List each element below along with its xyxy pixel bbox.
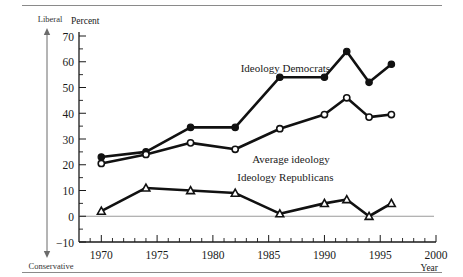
x-axis-tick-label: 2000 [425, 249, 448, 261]
data-point-marker [277, 126, 283, 132]
data-point-marker [321, 74, 327, 80]
data-point-marker [344, 95, 350, 101]
liberal-arrow-head [44, 28, 50, 35]
y-axis-tick-label: −10 [56, 237, 74, 249]
conservative-arrow-head [44, 251, 50, 258]
data-point-marker [388, 111, 394, 117]
data-point-marker [387, 199, 395, 206]
data-point-marker [366, 79, 372, 85]
data-point-marker [187, 124, 193, 130]
y-axis-tick-label: 20 [63, 159, 75, 171]
x-axis-tick-label: 1985 [257, 249, 280, 261]
data-point-marker [98, 160, 104, 166]
y-axis-tick-label: 10 [63, 185, 75, 197]
x-axis-tick-label: 1980 [201, 249, 224, 261]
x-axis-tick-label: 1990 [313, 249, 336, 261]
labels-layer: PercentYearLiberalConservativeIdeology D… [29, 14, 439, 273]
data-point-marker [232, 124, 238, 130]
series-2 [97, 184, 395, 219]
y-axis-tick-label: 60 [63, 56, 75, 68]
x-axis-title: Year [420, 263, 438, 273]
data-point-marker [277, 74, 283, 80]
series-annotation-2: Ideology Republicans [237, 171, 333, 183]
data-point-marker [366, 114, 372, 120]
data-point-marker [388, 61, 394, 67]
series-1 [98, 95, 394, 167]
y-axis-tick-label: 30 [63, 134, 75, 146]
series-annotation-1: Average ideology [252, 153, 330, 165]
data-point-marker [343, 196, 351, 203]
y-axis-tick-label: 40 [63, 108, 75, 120]
ideology-line-chart: −100102030405060701970197519801985199019… [0, 0, 463, 277]
data-point-marker [143, 151, 149, 157]
data-point-marker [98, 154, 104, 160]
data-point-marker [321, 111, 327, 117]
x-axis-tick-label: 1975 [146, 249, 169, 261]
data-point-marker [321, 199, 329, 206]
y-axis-tick-label: 70 [63, 31, 75, 43]
conservative-direction-label: Conservative [29, 261, 74, 271]
x-axis-tick-label: 1970 [90, 249, 113, 261]
data-point-marker [232, 146, 238, 152]
x-axis-tick-label: 1995 [369, 249, 392, 261]
data-point-marker [187, 187, 195, 194]
data-point-marker [187, 140, 193, 146]
y-axis-tick-label: 50 [63, 82, 75, 94]
data-point-marker [344, 48, 350, 54]
data-point-marker [142, 184, 150, 191]
y-axis-tick-label: 0 [68, 211, 74, 223]
series-annotation-0: Ideology Democrats [241, 62, 331, 74]
liberal-direction-label: Liberal [38, 14, 63, 24]
data-point-marker [231, 189, 239, 196]
data-point-marker [276, 210, 284, 217]
y-axis-title: Percent [71, 16, 100, 26]
